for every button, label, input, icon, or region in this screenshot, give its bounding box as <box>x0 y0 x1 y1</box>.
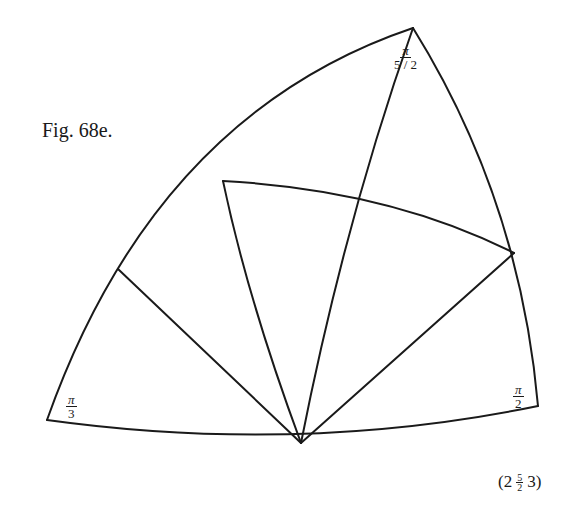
edge-left-arc <box>47 28 413 420</box>
symbol-frac-den: 2 <box>517 483 522 492</box>
spherical-triangle-diagram <box>0 0 588 512</box>
angle-label-top: π 5 / 2 <box>393 44 418 71</box>
angle-label-bottom-left: π 3 <box>66 393 77 420</box>
symbol-frac-num: 5 <box>516 473 523 483</box>
angle-bottom-right-denominator: 2 <box>514 397 523 410</box>
angle-top-denominator: 5 / 2 <box>393 58 418 71</box>
line-bottom-to-left-mid <box>118 269 301 443</box>
figure-caption: Fig. 68e. <box>42 119 113 142</box>
symbol-open: (2 <box>498 472 512 492</box>
line-bottom-to-right-mid <box>301 253 514 443</box>
angle-bottom-left-numerator: π <box>66 393 77 407</box>
symbol-close: 3) <box>527 472 541 492</box>
schlafli-symbol: (2 5 2 3) <box>498 472 541 492</box>
angle-label-bottom-right: π 2 <box>513 383 524 410</box>
edge-right-arc <box>413 28 538 406</box>
angle-bottom-right-numerator: π <box>513 383 524 397</box>
line-bottom-to-top <box>301 28 413 443</box>
line-bottom-to-upper-left <box>223 181 301 443</box>
arc-upper-left-to-right-mid <box>223 181 514 253</box>
symbol-fraction: 5 2 <box>516 473 523 492</box>
angle-bottom-left-denominator: 3 <box>67 407 76 420</box>
angle-top-numerator: π <box>400 44 411 58</box>
